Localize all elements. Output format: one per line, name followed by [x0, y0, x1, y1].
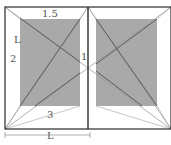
label-inner-margin: 1 [81, 51, 87, 62]
label-bottom-margin: 3 [47, 109, 53, 120]
corner-line [96, 106, 171, 129]
label-outer-margin: 2 [10, 53, 16, 64]
corner-line [5, 106, 80, 129]
label-side-L: L [14, 34, 21, 45]
page-construction-diagram: 1.5 L 2 1 3 L [0, 0, 171, 145]
label-width-L: L [47, 130, 54, 141]
label-top-margin: 1.5 [42, 8, 58, 19]
